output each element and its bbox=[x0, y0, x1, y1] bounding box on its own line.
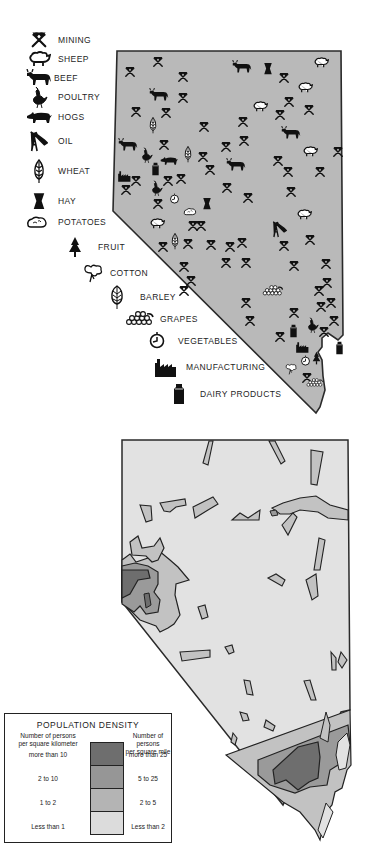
legend-title: POPULATION DENSITY bbox=[5, 720, 171, 730]
swatch-2-to-10 bbox=[90, 765, 124, 789]
swatch-less-than-1 bbox=[90, 811, 124, 835]
legend-km-value: 2 to 10 bbox=[7, 775, 89, 782]
swatch-more-than-10 bbox=[90, 742, 124, 766]
population-density-legend: POPULATION DENSITY Number of persons per… bbox=[4, 713, 172, 843]
swatch-1-to-2 bbox=[90, 788, 124, 812]
legend-mile-value: 5 to 25 bbox=[125, 775, 171, 782]
legend-km-value: Less than 1 bbox=[7, 823, 89, 830]
legend-mile-value: Less than 2 bbox=[125, 823, 171, 830]
legend-km-value: 1 to 2 bbox=[7, 799, 89, 806]
legend-mile-value: 2 to 5 bbox=[125, 799, 171, 806]
legend-km-header: Number of persons per square kilometer bbox=[7, 732, 89, 748]
legend-mile-value: more than 25 bbox=[125, 751, 171, 758]
legend-km-value: more than 10 bbox=[7, 751, 89, 758]
